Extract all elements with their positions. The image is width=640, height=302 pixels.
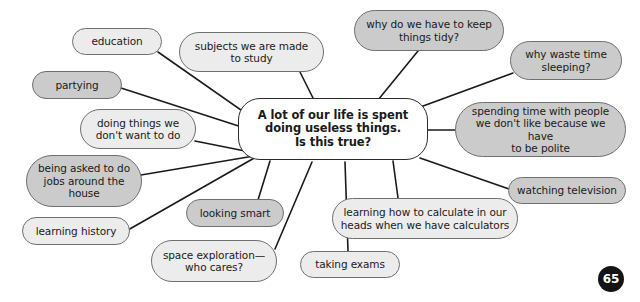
- page-number-badge: 65: [598, 266, 624, 292]
- central-node[interactable]: A lot of our life is spent doing useless…: [238, 98, 428, 160]
- node-why-do-we-have-to-keep-things-tidy-label: why do we have to keep things tidy?: [361, 18, 497, 43]
- node-taking-exams[interactable]: taking exams: [300, 251, 400, 278]
- connector-why-do-we-have-to-keep-things-tidy: [378, 51, 418, 100]
- node-taking-exams-label: taking exams: [307, 258, 393, 270]
- node-subjects-we-are-made-to-study[interactable]: subjects we are made to study: [179, 32, 324, 72]
- node-looking-smart[interactable]: looking smart: [186, 199, 284, 227]
- connector-watching-television: [420, 158, 509, 189]
- connector-subjects-we-are-made-to-study: [300, 72, 313, 98]
- node-subjects-we-are-made-to-study-label: subjects we are made to study: [186, 40, 317, 65]
- node-why-do-we-have-to-keep-things-tidy[interactable]: why do we have to keep things tidy?: [354, 10, 504, 51]
- node-being-asked-to-do-jobs-around-the-house[interactable]: being asked to do jobs around the house: [26, 155, 142, 207]
- mindmap-canvas: educationsubjects we are made to studywh…: [0, 0, 640, 302]
- node-spending-time-with-people-label: spending time with people we don't like …: [462, 105, 619, 155]
- node-spending-time-with-people[interactable]: spending time with people we don't like …: [455, 102, 626, 157]
- node-space-exploration-who-cares[interactable]: space exploration— who cares?: [151, 240, 277, 282]
- node-learning-how-to-calculate[interactable]: learning how to calculate in our heads w…: [332, 198, 518, 239]
- connector-looking-smart: [258, 161, 270, 200]
- page-number-label: 65: [603, 272, 620, 286]
- node-learning-how-to-calculate-label: learning how to calculate in our heads w…: [339, 206, 511, 231]
- node-doing-things-we-dont-want-to-do[interactable]: doing things we don't want to do: [80, 109, 196, 149]
- node-space-exploration-who-cares-label: space exploration— who cares?: [158, 249, 270, 274]
- node-learning-history[interactable]: learning history: [22, 217, 130, 245]
- node-why-waste-time-sleeping-label: why waste time sleeping?: [517, 48, 615, 73]
- node-education-label: education: [79, 35, 155, 47]
- node-doing-things-we-dont-want-to-do-label: doing things we don't want to do: [87, 117, 189, 142]
- node-partying[interactable]: partying: [32, 71, 122, 99]
- node-why-waste-time-sleeping[interactable]: why waste time sleeping?: [510, 41, 622, 80]
- node-learning-history-label: learning history: [29, 225, 123, 237]
- node-looking-smart-label: looking smart: [193, 207, 277, 219]
- node-partying-label: partying: [39, 79, 115, 91]
- node-watching-television[interactable]: watching television: [508, 177, 626, 204]
- node-watching-television-label: watching television: [515, 184, 619, 196]
- connector-learning-how-to-calculate: [393, 161, 398, 198]
- central-node-label: A lot of our life is spent doing useless…: [245, 109, 421, 150]
- node-being-asked-to-do-jobs-around-the-house-label: being asked to do jobs around the house: [33, 162, 135, 199]
- connector-being-asked-to-do-jobs-around-the-house: [141, 156, 254, 175]
- node-education[interactable]: education: [72, 28, 162, 55]
